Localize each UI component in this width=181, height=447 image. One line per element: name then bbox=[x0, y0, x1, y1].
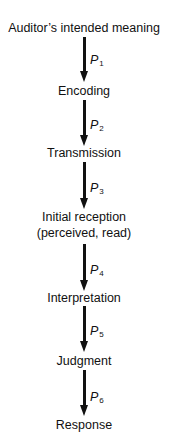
arrow-down-icon bbox=[80, 370, 88, 416]
node-judgment: Judgment bbox=[0, 354, 168, 369]
arrow-down-icon bbox=[80, 306, 88, 352]
arrow-down-icon bbox=[80, 100, 88, 146]
arrow-down-icon bbox=[80, 244, 88, 291]
edge-label-p5: P5 bbox=[90, 324, 104, 342]
edge-label-p6: P6 bbox=[90, 390, 104, 408]
node-initial-reception: Initial reception bbox=[0, 210, 168, 225]
edge-label-p3: P3 bbox=[90, 181, 104, 199]
node-initial-reception-sublabel: (perceived, read) bbox=[0, 226, 168, 241]
node-interpretation: Interpretation bbox=[0, 291, 168, 306]
edge-label-p2: P2 bbox=[90, 118, 104, 136]
arrow-down-icon bbox=[80, 37, 88, 82]
node-auditors-intended-meaning: Auditor’s intended meaning bbox=[0, 21, 168, 36]
edge-label-p1: P1 bbox=[90, 53, 104, 71]
node-response: Response bbox=[0, 418, 168, 433]
arrow-down-icon bbox=[80, 162, 88, 209]
node-encoding: Encoding bbox=[0, 84, 168, 99]
node-transmission: Transmission bbox=[0, 146, 168, 161]
edge-label-p4: P4 bbox=[90, 263, 104, 281]
